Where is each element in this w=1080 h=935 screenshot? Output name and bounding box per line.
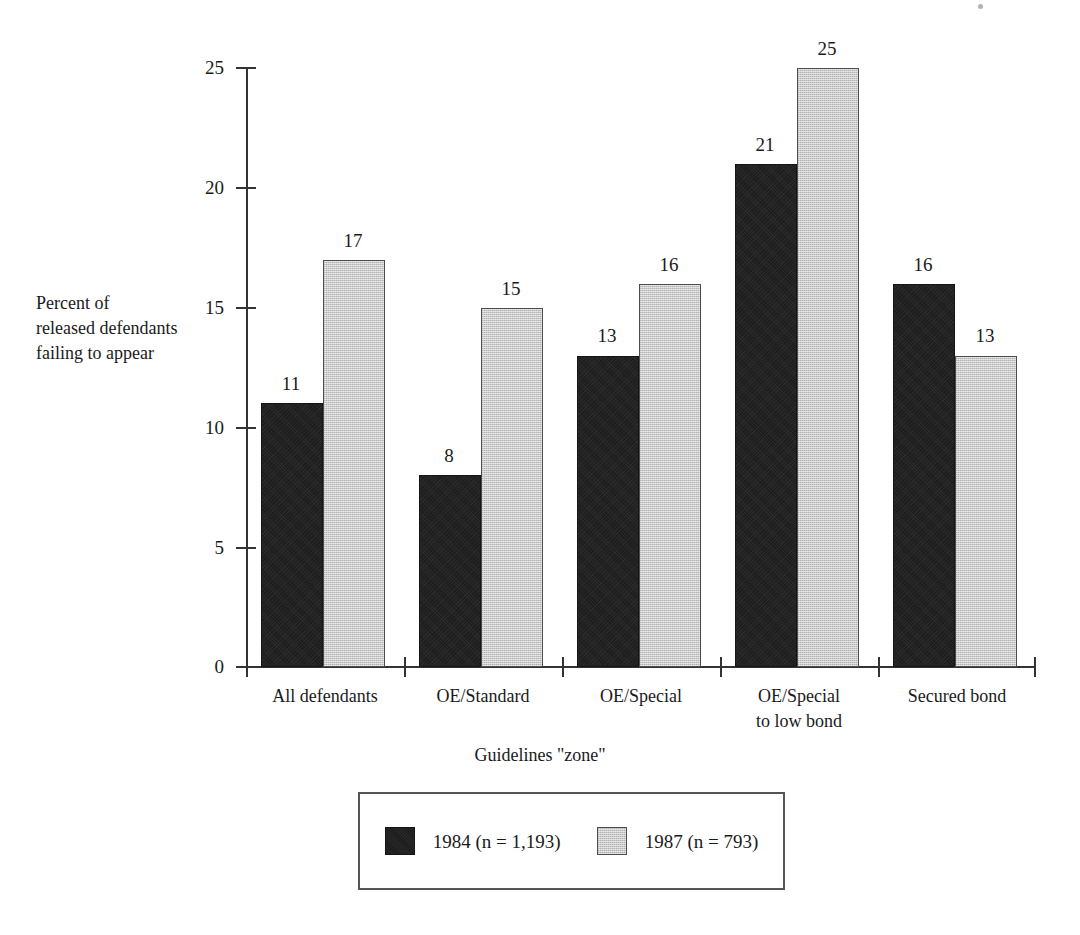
bar-1987-oe-special-to-low-bond[interactable] (797, 68, 859, 667)
legend-entry-1987[interactable]: 1987 (n = 793) (597, 827, 759, 855)
legend-swatch-1984-icon (385, 827, 415, 855)
x-category-label-secured-bond: Secured bond (878, 684, 1036, 709)
x-category-label-all-defendants: All defendants (246, 684, 404, 709)
bar-1984-all-defendants[interactable] (261, 403, 323, 667)
legend: 1984 (n = 1,193) 1987 (n = 793) (358, 792, 785, 890)
x-axis-title: Guidelines "zone" (0, 745, 1080, 766)
y-axis-title-line-3: failing to appear (36, 341, 236, 366)
legend-row: 1984 (n = 1,193) 1987 (n = 793) (360, 794, 783, 888)
x-category-label-line-1: Secured bond (878, 684, 1036, 709)
x-category-label-line-1: All defendants (246, 684, 404, 709)
bar-1984-oe-standard[interactable] (419, 475, 481, 667)
bar-1987-all-defendants[interactable] (323, 260, 385, 667)
bar-value-label-1984-oe-standard: 8 (389, 446, 509, 465)
legend-label-1984: 1984 (n = 1,193) (433, 832, 561, 851)
bar-value-label-1987-oe-special: 16 (609, 255, 729, 274)
y-axis-title-line-1: Percent of (36, 291, 236, 316)
y-tick-label-10: 10 (176, 418, 224, 437)
scan-artifact-speck (978, 4, 983, 9)
y-tick-label-25: 25 (176, 58, 224, 77)
y-axis-title-line-2: released defendants (36, 316, 236, 341)
bar-1984-oe-special-to-low-bond[interactable] (735, 164, 797, 667)
y-tick-label-0: 0 (176, 657, 224, 676)
x-category-label-line-2: to low bond (720, 709, 878, 734)
y-tick-label-20: 20 (176, 178, 224, 197)
x-category-label-line-1: OE/Special (720, 684, 878, 709)
bar-value-label-1987-secured-bond: 13 (925, 326, 1045, 345)
legend-swatch-1987-icon (597, 827, 627, 855)
x-category-label-line-1: OE/Special (562, 684, 720, 709)
y-axis-title: Percent of released defendants failing t… (36, 291, 236, 366)
bar-value-label-1987-oe-special-to-low-bond: 25 (767, 39, 887, 58)
bar-1987-oe-standard[interactable] (481, 308, 543, 667)
plot-area (246, 68, 1035, 667)
bar-value-label-1984-all-defendants: 11 (231, 374, 351, 393)
legend-label-1987: 1987 (n = 793) (645, 832, 759, 851)
bar-value-label-1984-oe-special: 13 (547, 326, 667, 345)
bar-chart-figure: 25 20 15 10 5 0 Percent of released defe… (0, 0, 1080, 935)
bar-value-label-1987-all-defendants: 17 (293, 231, 413, 250)
legend-entry-1984[interactable]: 1984 (n = 1,193) (385, 827, 561, 855)
y-tick-label-5: 5 (176, 538, 224, 557)
x-category-label-oe-standard: OE/Standard (404, 684, 562, 709)
bar-value-label-1984-secured-bond: 16 (863, 255, 983, 274)
bar-1987-secured-bond[interactable] (955, 356, 1017, 668)
bar-1984-oe-special[interactable] (577, 356, 639, 668)
bar-value-label-1984-oe-special-to-low-bond: 21 (705, 135, 825, 154)
x-category-label-oe-special: OE/Special (562, 684, 720, 709)
bar-value-label-1987-oe-standard: 15 (451, 279, 571, 298)
x-category-label-oe-special-to-low-bond: OE/Special to low bond (720, 684, 878, 734)
x-category-label-line-1: OE/Standard (404, 684, 562, 709)
